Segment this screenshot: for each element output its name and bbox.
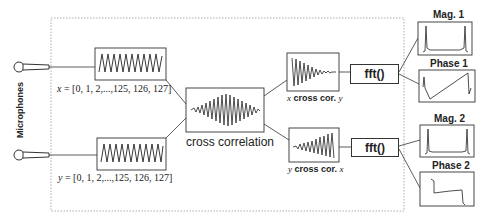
y-signal-box (97, 138, 166, 170)
y-values: = [0, 1, 2,...,125, 126, 127] (62, 172, 172, 183)
phase-2-plot (420, 172, 474, 206)
y-cross-cor-x-label: y cross cor. x (288, 165, 344, 174)
x-signal-label: x = [0, 1, 2,...,125, 126, 127] (57, 84, 171, 94)
fft-2-box: fft() (351, 138, 399, 157)
cross-correlation-label: cross correlation (186, 136, 274, 148)
phase-2-label: Phase 2 (432, 161, 470, 171)
y-cross-cor-x-box (289, 128, 339, 162)
signal-flow-diagram (0, 0, 489, 221)
phase-1-label: Phase 1 (430, 59, 468, 69)
microphones-label: Microphones (15, 80, 25, 140)
mag-2-label: Mag. 2 (434, 114, 465, 124)
x-cross-cor-y-label: x cross cor. y (287, 94, 343, 103)
microphone-2-icon (14, 150, 49, 160)
fft-1-box: fft() (350, 64, 399, 84)
y-signal-label: y = [0, 1, 2,...,125, 126, 127] (58, 173, 172, 183)
phase-1-plot (419, 70, 475, 102)
microphone-1-icon (14, 62, 49, 72)
mag-1-label: Mag. 1 (433, 10, 464, 20)
x-values: = [0, 1, 2,...,125, 126, 127] (61, 83, 171, 94)
